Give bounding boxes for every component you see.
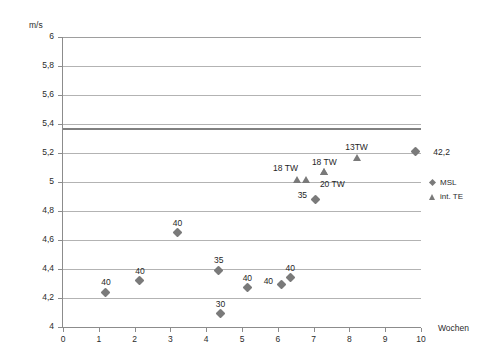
gridline xyxy=(63,182,421,183)
data-point-label: 40 xyxy=(286,264,295,273)
y-axis-tick xyxy=(58,269,62,270)
legend-item-int-te: int. TE xyxy=(428,189,463,203)
data-point-diamond[interactable] xyxy=(101,287,111,297)
y-axis-tick-label: 4 xyxy=(24,322,54,331)
y-axis-tick-label: 6 xyxy=(24,32,54,41)
x-axis-tick-label: 8 xyxy=(337,335,361,344)
data-point-label: 35 xyxy=(214,256,223,265)
data-point-diamond[interactable] xyxy=(216,309,226,319)
legend-item-msl: MSL xyxy=(428,175,463,189)
data-point-label: 35 xyxy=(298,191,307,200)
y-axis-tick-label: 4,6 xyxy=(24,235,54,244)
diamond-marker-icon xyxy=(428,177,438,187)
gridline xyxy=(63,153,421,154)
gridline xyxy=(63,269,421,270)
data-point-triangle[interactable] xyxy=(353,154,361,161)
x-axis-tick xyxy=(206,328,207,332)
data-point-label: 40 xyxy=(243,274,252,283)
x-axis-tick-label: 10 xyxy=(409,335,433,344)
y-axis-tick xyxy=(58,95,62,96)
data-point-diamond[interactable] xyxy=(411,147,421,157)
data-point-label: 18 TW xyxy=(312,158,337,167)
x-axis-tick xyxy=(421,328,422,332)
x-axis-tick-label: 1 xyxy=(87,335,111,344)
y-axis-tick-label: 4,8 xyxy=(24,206,54,215)
data-point-diamond[interactable] xyxy=(214,265,224,275)
data-point-label: 20 TW xyxy=(320,180,345,189)
legend-label-msl: MSL xyxy=(440,178,456,187)
x-axis-tick xyxy=(135,328,136,332)
x-axis-tick-label: 5 xyxy=(230,335,254,344)
reference-line xyxy=(63,128,421,130)
x-axis-tick xyxy=(242,328,243,332)
y-axis-tick-label: 5,4 xyxy=(24,119,54,128)
legend-label-int-te: int. TE xyxy=(440,192,463,201)
data-point-triangle[interactable] xyxy=(293,176,301,183)
x-axis-tick xyxy=(385,328,386,332)
x-axis-tick xyxy=(63,328,64,332)
x-axis-tick xyxy=(170,328,171,332)
data-point-label: 40 xyxy=(173,219,182,228)
data-point-diamond[interactable] xyxy=(135,276,145,286)
x-axis-title: Wochen xyxy=(438,323,469,333)
gridline xyxy=(63,37,421,38)
x-axis-tick-label: 7 xyxy=(302,335,326,344)
y-axis-tick-label: 5 xyxy=(24,177,54,186)
data-point-triangle[interactable] xyxy=(320,168,328,175)
data-point-label: 42,2 xyxy=(433,148,450,157)
gridline xyxy=(63,298,421,299)
chart-legend: MSL int. TE xyxy=(428,175,463,203)
data-point-diamond[interactable] xyxy=(242,283,252,293)
data-point-label: 30 xyxy=(216,300,225,309)
x-axis-tick-label: 0 xyxy=(51,335,75,344)
data-point-label: 13TW xyxy=(345,143,368,152)
x-axis-tick-label: 9 xyxy=(373,335,397,344)
y-axis-tick xyxy=(58,240,62,241)
y-axis-tick xyxy=(58,153,62,154)
gridline xyxy=(63,124,421,125)
gridline xyxy=(63,95,421,96)
gridline xyxy=(63,240,421,241)
y-axis-tick-label: 4,4 xyxy=(24,264,54,273)
data-point-diamond[interactable] xyxy=(276,280,286,290)
y-axis-tick xyxy=(58,298,62,299)
y-axis-tick xyxy=(58,182,62,183)
y-axis-tick xyxy=(58,327,62,328)
y-axis-line xyxy=(62,37,63,328)
y-axis-tick xyxy=(58,124,62,125)
data-point-label: 18 TW xyxy=(273,164,298,173)
x-axis-tick-label: 4 xyxy=(194,335,218,344)
x-axis-tick xyxy=(349,328,350,332)
y-axis-tick xyxy=(58,66,62,67)
y-axis-title: m/s xyxy=(29,20,43,30)
data-point-diamond[interactable] xyxy=(285,273,295,283)
y-axis-tick xyxy=(58,37,62,38)
x-axis-tick-label: 6 xyxy=(266,335,290,344)
triangle-marker-icon xyxy=(428,191,438,201)
data-point-label: 40 xyxy=(135,267,144,276)
data-point-diamond[interactable] xyxy=(310,194,320,204)
plot-area: 40404035304040403542,218 TW18 TW20 TW13T… xyxy=(63,37,421,327)
gridline xyxy=(63,211,421,212)
y-axis-tick xyxy=(58,211,62,212)
x-axis-tick-label: 2 xyxy=(123,335,147,344)
y-axis-tick-label: 5,8 xyxy=(24,61,54,70)
y-axis-tick-label: 4,2 xyxy=(24,293,54,302)
y-axis-tick-label: 5,6 xyxy=(24,90,54,99)
data-point-diamond[interactable] xyxy=(173,228,183,238)
scatter-chart: m/s Wochen 40404035304040403542,218 TW18… xyxy=(0,0,495,362)
data-point-triangle[interactable] xyxy=(302,176,310,183)
data-point-label: 40 xyxy=(264,277,273,286)
x-axis-tick-label: 3 xyxy=(158,335,182,344)
y-axis-tick-label: 5,2 xyxy=(24,148,54,157)
x-axis-tick xyxy=(99,328,100,332)
gridline xyxy=(63,66,421,67)
x-axis-tick xyxy=(314,328,315,332)
x-axis-tick xyxy=(278,328,279,332)
data-point-label: 40 xyxy=(101,278,110,287)
